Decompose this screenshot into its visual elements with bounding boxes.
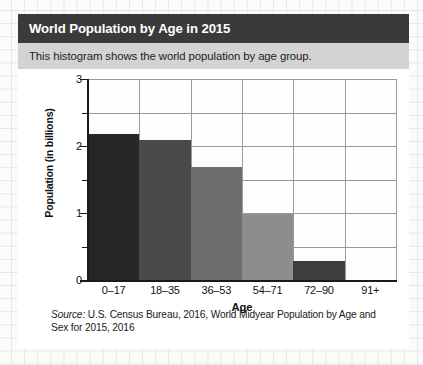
bar-54–71 [242, 214, 293, 281]
y-tick-label: 0 [36, 274, 82, 286]
y-tick-label: 3 [36, 73, 82, 85]
x-tick-label: 91+ [345, 284, 396, 296]
bar-column [88, 80, 139, 281]
bar-column [293, 80, 344, 281]
source-note: Source: U.S. Census Bureau, 2016, World … [51, 308, 389, 334]
x-tick-label: 0–17 [88, 284, 139, 296]
x-tick-label: 72–90 [293, 284, 344, 296]
y-tick-label: 2 [36, 140, 82, 152]
y-tick-mark [80, 213, 87, 214]
bar-column [345, 80, 396, 281]
y-tick-mark [80, 79, 87, 80]
page-title: World Population by Age in 2015 [29, 21, 230, 36]
bar-column [242, 80, 293, 281]
x-tick-label: 18–35 [139, 284, 190, 296]
x-tick-label: 36–53 [191, 284, 242, 296]
bar-36–53 [191, 167, 242, 281]
x-axis-ticks: 0–1718–3536–5354–7172–9091+ [88, 284, 396, 296]
bar-column [139, 80, 190, 281]
card-body: Population (in billions) 0123 0–1718–353… [18, 69, 409, 349]
y-axis-ticks: 0123 [30, 79, 82, 280]
x-axis-line [80, 280, 397, 282]
chart-card: World Population by Age in 2015 This his… [18, 14, 409, 349]
card-subtitle-bar: This histogram shows the world populatio… [18, 43, 409, 69]
card-title-bar: World Population by Age in 2015 [18, 14, 409, 43]
x-tick-label: 54–71 [242, 284, 293, 296]
plot-area [88, 79, 397, 281]
bar-72–90 [293, 261, 344, 281]
source-text: U.S. Census Bureau, 2016, World Midyear … [51, 309, 376, 333]
y-tick-label: 1 [36, 207, 82, 219]
y-axis-line [87, 79, 89, 281]
bar-series [88, 80, 396, 281]
bar-0–17 [88, 134, 139, 281]
y-tick-mark [80, 146, 87, 147]
source-prefix: Source: [51, 309, 85, 320]
bar-18–35 [139, 140, 190, 281]
bar-column [191, 80, 242, 281]
histogram-chart: Population (in billions) 0123 0–1718–353… [30, 73, 397, 295]
card-subtitle: This histogram shows the world populatio… [29, 50, 312, 62]
